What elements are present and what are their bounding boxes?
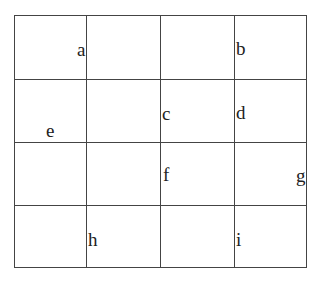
grid-horizontal-line-1 [14, 79, 307, 80]
label-g: g [296, 166, 306, 185]
label-c: c [162, 104, 170, 123]
label-b: b [236, 39, 246, 58]
label-d: d [236, 103, 246, 122]
grid-horizontal-line-3 [14, 205, 307, 206]
label-a: a [77, 40, 85, 59]
label-h: h [88, 230, 98, 249]
label-e: e [46, 121, 54, 140]
grid-horizontal-line-2 [14, 142, 307, 143]
label-f: f [163, 165, 169, 184]
label-i: i [236, 230, 241, 249]
